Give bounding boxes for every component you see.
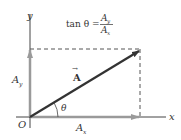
vector-components-diagram: y x O θ → A A y A x tan θ = A y A x (0, 0, 181, 140)
ax-letter: A (75, 122, 83, 133)
angle-arc (54, 103, 58, 118)
y-axis-label: y (26, 10, 33, 21)
ay-letter: A (11, 74, 19, 85)
vector-a (30, 51, 139, 117)
tan-formula: tan θ = A y A x (66, 13, 113, 36)
formula-numerator-sub: y (106, 18, 111, 25)
angle-label: θ (61, 103, 67, 113)
origin-label: O (18, 119, 26, 130)
formula-lhs: tan θ = (66, 19, 99, 29)
ay-subscript: y (18, 80, 23, 88)
x-axis-label: x (169, 111, 175, 122)
ax-label: A x (75, 122, 87, 135)
ax-subscript: x (83, 128, 87, 135)
vector-a-label: → A (72, 65, 81, 83)
vector-letter: A (72, 72, 81, 83)
formula-denominator-sub: x (107, 30, 111, 36)
ay-label: A y (11, 74, 23, 88)
